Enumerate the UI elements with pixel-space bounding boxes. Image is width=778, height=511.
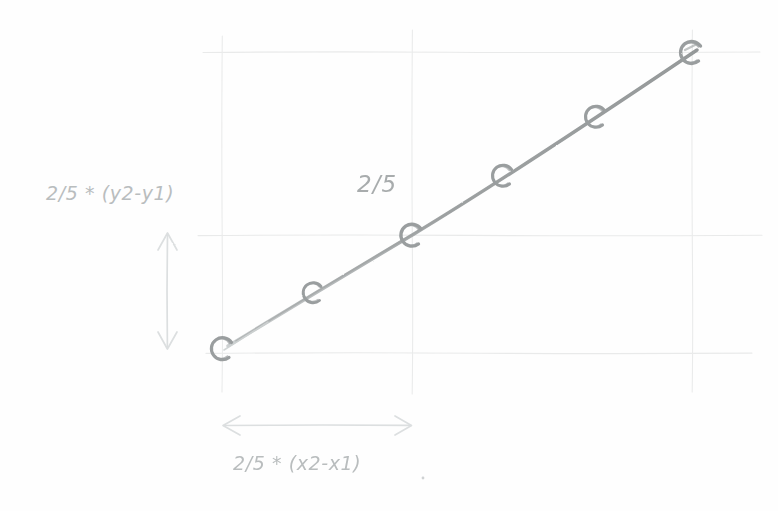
trend-line-stroke: [228, 50, 697, 346]
trend-line-tail-light: [224, 322, 268, 350]
grid-horizontal-lines: [198, 52, 762, 354]
gridline-vertical-middle: [412, 30, 413, 394]
run-arrow: [223, 416, 412, 435]
data-point-marker[interactable]: [211, 338, 232, 360]
run-dimension-label: 2/5 * (x2-x1): [233, 452, 361, 474]
slope-label: 2/5: [357, 171, 397, 197]
trend-line-layer: [224, 50, 697, 350]
stray-pencil-dot: [422, 477, 425, 480]
rise-dimension-label: 2/5 * (y2-y1): [46, 182, 174, 204]
gridline-vertical-right: [692, 30, 693, 392]
gridline-horizontal-bottom: [206, 353, 752, 354]
gridline-horizontal-middle: [198, 235, 762, 236]
rise-arrow: [158, 233, 177, 349]
grid-vertical-lines: [222, 30, 693, 394]
sketch-drawing: [0, 0, 778, 511]
sketch-figure: 2/5 * (y2-y1) 2/5 * (x2-x1) 2/5: [0, 0, 778, 511]
dimension-arrows-layer: [158, 233, 412, 435]
grid-layer: [198, 30, 762, 394]
gridline-horizontal-top: [203, 52, 760, 53]
